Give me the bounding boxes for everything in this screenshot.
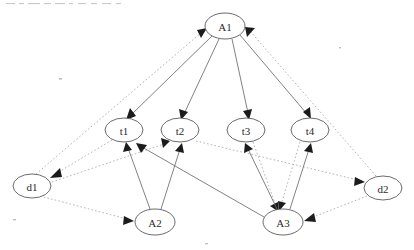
node-A2-label: A2 xyxy=(148,217,161,229)
node-t3[interactable]: t3 xyxy=(227,118,265,142)
node-t1[interactable]: t1 xyxy=(105,118,143,142)
scan-noise-top xyxy=(6,3,121,4)
edge-A2-to-t1 xyxy=(123,142,150,209)
node-t3-label: t3 xyxy=(242,125,251,137)
node-A1-label: A1 xyxy=(218,21,231,33)
edge-A3-to-t4 xyxy=(290,143,313,209)
solid-edge-layer xyxy=(123,35,313,217)
node-layer: A1 t1 t2 t3 t4 d1 xyxy=(13,13,402,235)
edge-d2-to-A3 xyxy=(304,196,367,222)
node-d1[interactable]: d1 xyxy=(13,174,51,198)
node-d2-label: d2 xyxy=(378,183,389,195)
node-t2-label: t2 xyxy=(176,125,185,137)
node-A3-label: A3 xyxy=(276,217,290,229)
edge-t3-to-A3 xyxy=(253,142,279,212)
edge-A1-to-t2 xyxy=(179,39,219,120)
edge-A3-to-t1 xyxy=(136,143,264,217)
diagram-canvas: A1 t1 t2 t3 t4 d1 xyxy=(0,0,414,250)
edge-A2-to-t2 xyxy=(161,143,184,209)
edge-A1-to-t4 xyxy=(240,35,311,119)
node-A3[interactable]: A3 xyxy=(263,209,303,235)
node-d1-label: d1 xyxy=(27,181,38,193)
edge-d1-to-A2 xyxy=(40,196,134,225)
node-A2[interactable]: A2 xyxy=(135,209,175,235)
node-t2[interactable]: t2 xyxy=(161,118,199,142)
graph-svg: A1 t1 t2 t3 t4 d1 xyxy=(0,0,414,250)
node-t4-label: t4 xyxy=(306,125,315,137)
edge-A3-to-t3 xyxy=(244,143,277,209)
edge-d2-to-A1 xyxy=(245,27,376,176)
edge-A1-to-t1 xyxy=(126,36,212,120)
node-t4[interactable]: t4 xyxy=(291,118,329,142)
node-t1-label: t1 xyxy=(120,125,129,137)
edge-A1-to-t3 xyxy=(232,39,252,120)
edge-t2-to-d2 xyxy=(196,141,365,186)
node-d2[interactable]: d2 xyxy=(364,176,402,200)
edge-t4-to-A3 xyxy=(278,142,300,211)
edge-d1-to-t2 xyxy=(52,138,170,182)
node-A1[interactable]: A1 xyxy=(205,13,245,39)
